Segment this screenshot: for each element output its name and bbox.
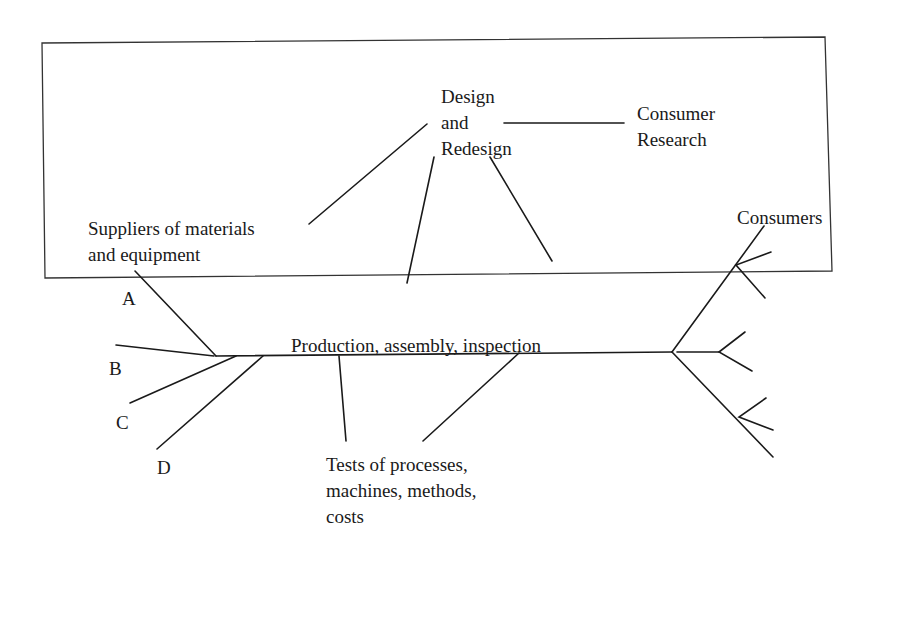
arrowhead-lower-icon xyxy=(739,398,773,430)
consumers-label: Consumers xyxy=(737,205,823,231)
tests-left-line xyxy=(339,356,346,441)
design-down-left-line xyxy=(407,157,434,283)
tests-label: Tests of processes, machines, methods, c… xyxy=(326,452,476,530)
consumer-research-label: Consumer Research xyxy=(637,101,715,153)
suppliers-label: Suppliers of materials and equipment xyxy=(88,216,255,268)
design-label: Design and Redesign xyxy=(441,84,512,162)
branch-c-line xyxy=(130,356,236,403)
branch-b-line xyxy=(116,345,214,356)
branch-a-line xyxy=(135,271,216,356)
production-label: Production, assembly, inspection xyxy=(291,333,541,359)
design-to-suppliers-line xyxy=(309,124,427,224)
diagram-canvas: Design and Redesign Consumer Research Su… xyxy=(0,0,910,622)
design-down-right-line xyxy=(490,157,552,261)
arrowhead-middle-icon xyxy=(719,332,752,371)
arrowhead-upper-icon xyxy=(736,252,771,298)
supplier-b-label: B xyxy=(109,356,122,382)
supplier-a-label: A xyxy=(122,286,136,312)
supplier-c-label: C xyxy=(116,410,129,436)
branch-d-line xyxy=(157,356,263,449)
supplier-d-label: D xyxy=(157,455,171,481)
consumer-upper-line xyxy=(672,226,764,352)
tests-right-line xyxy=(423,353,519,441)
